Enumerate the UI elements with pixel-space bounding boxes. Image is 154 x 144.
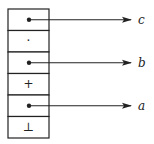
plus-symbol: + xyxy=(23,77,33,91)
pointer-stack-diagram: ·+⊥ cba xyxy=(0,0,154,144)
bottom-symbol: ⊥ xyxy=(23,120,34,134)
cells-group: ·+⊥ xyxy=(8,9,49,138)
dot-symbol: · xyxy=(27,34,31,48)
target-label-c: c xyxy=(138,13,145,27)
target-label-a: a xyxy=(138,99,145,113)
target-label-b: b xyxy=(138,56,146,70)
